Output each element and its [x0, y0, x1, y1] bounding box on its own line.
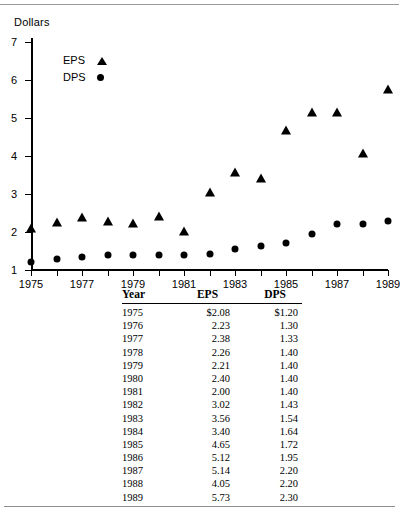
data-point-eps: [230, 167, 240, 176]
circle-marker-icon: [97, 74, 104, 81]
cell-dps: 1.64: [248, 425, 302, 438]
table-row: 19762.231.30: [122, 319, 302, 332]
cell-eps: 5.12: [167, 451, 248, 464]
x-tick: [184, 270, 185, 276]
cell-dps: $1.20: [248, 304, 302, 320]
y-tick: 6: [25, 80, 31, 81]
x-tick-label: 1977: [70, 279, 94, 290]
table-head: Year EPS DPS: [122, 288, 302, 304]
cell-year: 1986: [122, 451, 167, 464]
x-tick: [82, 270, 83, 276]
cell-year: 1976: [122, 319, 167, 332]
eps-dps-scatter-chart: Dollars 1234567 197519771979198119831985…: [0, 8, 399, 286]
cell-eps: 2.21: [167, 359, 248, 372]
data-point-eps: [52, 218, 62, 227]
cell-eps: 5.14: [167, 464, 248, 477]
y-tick-label: 5: [11, 113, 17, 124]
table-row: 19802.401.40: [122, 372, 302, 385]
data-point-dps: [232, 246, 239, 253]
x-tick: [57, 270, 58, 276]
cell-eps: 2.23: [167, 319, 248, 332]
cell-year: 1980: [122, 372, 167, 385]
x-tick: [286, 270, 287, 276]
data-point-dps: [130, 251, 137, 258]
x-tick: [312, 270, 313, 276]
table-row: 19782.261.40: [122, 345, 302, 358]
table-row: 19895.732.30: [122, 491, 302, 504]
x-tick: [337, 270, 338, 276]
cell-year: 1978: [122, 345, 167, 358]
x-tick: [108, 270, 109, 276]
data-point-dps: [155, 251, 162, 258]
table-row: 19823.021.43: [122, 398, 302, 411]
cell-eps: 5.73: [167, 491, 248, 504]
cell-eps: 3.56: [167, 411, 248, 424]
x-tick: [388, 270, 389, 276]
data-point-dps: [385, 217, 392, 224]
cell-dps: 1.30: [248, 319, 302, 332]
data-point-eps: [179, 227, 189, 236]
legend-item-dps: DPS: [63, 69, 107, 86]
eps-dps-data-table: Year EPS DPS 1975$2.08$1.2019762.231.301…: [122, 288, 302, 504]
data-point-dps: [79, 254, 86, 261]
cell-year: 1979: [122, 359, 167, 372]
x-tick: [235, 270, 236, 276]
legend-label-dps: DPS: [63, 69, 89, 86]
cell-year: 1983: [122, 411, 167, 424]
cell-eps: 2.00: [167, 385, 248, 398]
data-point-eps: [358, 149, 368, 158]
cell-dps: 1.40: [248, 372, 302, 385]
legend-label-eps: EPS: [63, 52, 89, 69]
y-tick-label: 6: [11, 75, 17, 86]
page-top-rule: [0, 4, 399, 5]
cell-dps: 1.95: [248, 451, 302, 464]
y-axis-title: Dollars: [14, 16, 50, 28]
y-tick: 3: [25, 194, 31, 195]
table: Year EPS DPS 1975$2.08$1.2019762.231.301…: [122, 288, 302, 504]
data-point-dps: [181, 251, 188, 258]
cell-year: 1987: [122, 464, 167, 477]
data-point-dps: [334, 221, 341, 228]
table-row: 1975$2.08$1.20: [122, 304, 302, 320]
cell-eps: 2.40: [167, 372, 248, 385]
table-row: 19854.651.72: [122, 438, 302, 451]
legend-item-eps: EPS: [63, 52, 107, 69]
y-tick: 5: [25, 118, 31, 119]
data-point-dps: [53, 255, 60, 262]
data-point-eps: [307, 108, 317, 117]
data-point-dps: [308, 230, 315, 237]
table-body: 1975$2.08$1.2019762.231.3019772.381.3319…: [122, 304, 302, 504]
data-point-eps: [77, 212, 87, 221]
y-tick-label: 3: [11, 189, 17, 200]
x-tick: [133, 270, 134, 276]
data-point-eps: [383, 85, 393, 94]
x-tick: [363, 270, 364, 276]
x-tick: [159, 270, 160, 276]
chart-legend: EPS DPS: [63, 52, 107, 86]
table-row: 19875.142.20: [122, 464, 302, 477]
cell-eps: $2.08: [167, 304, 248, 320]
y-tick-label: 4: [11, 151, 17, 162]
y-tick-label: 7: [11, 37, 17, 48]
cell-dps: 1.40: [248, 345, 302, 358]
cell-year: 1985: [122, 438, 167, 451]
table-row: 19772.381.33: [122, 332, 302, 345]
data-point-eps: [26, 223, 36, 232]
x-tick-label: 1989: [376, 279, 400, 290]
data-point-dps: [206, 250, 213, 257]
y-tick: 4: [25, 156, 31, 157]
data-point-eps: [332, 107, 342, 116]
cell-eps: 3.40: [167, 425, 248, 438]
data-point-dps: [104, 251, 111, 258]
table-row: 19833.561.54: [122, 411, 302, 424]
table-row: 19843.401.64: [122, 425, 302, 438]
cell-year: 1982: [122, 398, 167, 411]
cell-eps: 2.38: [167, 332, 248, 345]
data-point-dps: [359, 221, 366, 228]
x-tick-label: 1975: [19, 279, 43, 290]
cell-year: 1977: [122, 332, 167, 345]
x-tick-label: 1987: [325, 279, 349, 290]
cell-year: 1984: [122, 425, 167, 438]
x-tick: [210, 270, 211, 276]
page-bottom-rule: [4, 506, 395, 507]
